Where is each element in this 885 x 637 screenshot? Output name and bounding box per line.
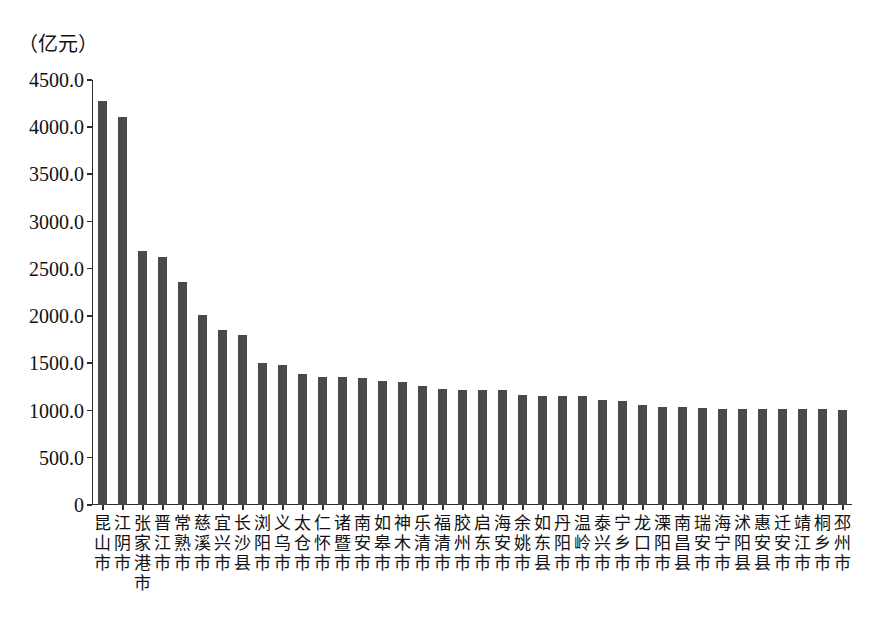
y-axis-tick-mark	[87, 504, 92, 506]
y-axis-tick-label: 3000.0	[10, 212, 84, 232]
bar	[378, 381, 387, 505]
bar	[238, 335, 247, 505]
bar	[298, 374, 307, 505]
x-axis-tick-mark	[182, 505, 184, 510]
x-axis-tick-label-char: 邳	[830, 514, 854, 534]
y-axis-tick-label: 1000.0	[10, 401, 84, 421]
bar-chart: （亿元） 4500.04000.03500.03000.02500.02000.…	[0, 0, 885, 637]
bar	[258, 363, 267, 505]
bar	[118, 117, 127, 505]
y-axis-tick-label: 500.0	[10, 448, 84, 468]
x-axis-tick-mark	[382, 505, 384, 510]
y-axis-tick-mark	[87, 173, 92, 175]
bar	[838, 410, 847, 505]
y-axis-tick-mark	[87, 315, 92, 317]
bar	[498, 390, 507, 505]
x-axis-tick-label-char: 市	[130, 574, 154, 594]
y-axis-tick-mark	[87, 221, 92, 223]
bar	[678, 407, 687, 505]
bar	[158, 257, 167, 505]
y-axis-tick-mark	[87, 268, 92, 270]
y-axis-tick-label: 2000.0	[10, 306, 84, 326]
x-axis-tick-mark	[162, 505, 164, 510]
y-axis-tick-mark	[87, 79, 92, 81]
bar	[578, 396, 587, 505]
x-axis-tick-mark	[362, 505, 364, 510]
y-axis-tick-label: 0	[10, 495, 84, 515]
x-axis-tick-mark	[422, 505, 424, 510]
x-axis-tick-mark	[462, 505, 464, 510]
bar	[718, 409, 727, 505]
x-axis-tick-mark	[522, 505, 524, 510]
x-axis-tick-mark	[302, 505, 304, 510]
bar	[338, 377, 347, 505]
bar	[318, 377, 327, 505]
x-axis-tick-mark	[142, 505, 144, 510]
y-axis-tick-mark	[87, 362, 92, 364]
bar	[138, 251, 147, 505]
bar	[738, 409, 747, 505]
x-axis-tick-mark	[402, 505, 404, 510]
bar	[98, 101, 107, 505]
x-axis-tick-mark	[202, 505, 204, 510]
x-axis-tick-mark	[502, 505, 504, 510]
y-axis-tick-label: 1500.0	[10, 353, 84, 373]
x-axis-tick-mark	[242, 505, 244, 510]
bar	[598, 400, 607, 505]
x-axis-tick-mark	[602, 505, 604, 510]
x-axis-tick-label-char: 州	[830, 534, 854, 554]
x-axis-tick-mark	[482, 505, 484, 510]
bar	[418, 386, 427, 505]
bar	[398, 382, 407, 505]
x-axis-tick-mark	[802, 505, 804, 510]
x-axis-tick-mark	[562, 505, 564, 510]
x-axis-tick-labels: 昆山市江阴市张家港市晋江市常熟市慈溪市宜兴市长沙县浏阳市义乌市太仓市仁怀市诸暨市…	[92, 514, 852, 634]
x-axis-tick-mark	[702, 505, 704, 510]
x-axis-tick-mark	[782, 505, 784, 510]
bar	[178, 282, 187, 505]
x-axis-tick-mark	[682, 505, 684, 510]
bar	[558, 396, 567, 505]
y-axis-tick-label: 3500.0	[10, 164, 84, 184]
bar	[618, 401, 627, 505]
x-axis-tick-mark	[262, 505, 264, 510]
y-axis-tick-labels: 4500.04000.03500.03000.02500.02000.01500…	[0, 80, 84, 505]
x-axis-tick-mark	[102, 505, 104, 510]
bar	[518, 395, 527, 505]
bar	[538, 396, 547, 505]
bar	[698, 408, 707, 505]
bar	[438, 389, 447, 505]
bar	[358, 378, 367, 506]
bar	[198, 315, 207, 505]
x-axis-tick-mark	[822, 505, 824, 510]
x-axis-tick-mark	[322, 505, 324, 510]
x-axis-tick-mark	[542, 505, 544, 510]
y-axis-tick-label: 4000.0	[10, 117, 84, 137]
y-axis-tick-label: 4500.0	[10, 70, 84, 90]
x-axis-tick-mark	[282, 505, 284, 510]
bar	[658, 407, 667, 505]
x-axis-tick-mark	[662, 505, 664, 510]
x-axis-tick-mark	[762, 505, 764, 510]
x-axis-tick-mark	[122, 505, 124, 510]
x-axis-tick-mark	[342, 505, 344, 510]
x-axis-tick-mark	[622, 505, 624, 510]
bars-layer	[92, 80, 852, 505]
bar	[778, 409, 787, 505]
y-axis-unit-label: （亿元）	[18, 28, 98, 57]
x-axis-tick-mark	[722, 505, 724, 510]
bar	[218, 330, 227, 505]
bar	[478, 390, 487, 505]
y-axis-tick-mark	[87, 126, 92, 128]
bar	[798, 409, 807, 505]
y-axis-tick-mark	[87, 410, 92, 412]
x-axis-tick-mark	[442, 505, 444, 510]
y-axis-tick-mark	[87, 457, 92, 459]
x-axis-tick-mark	[742, 505, 744, 510]
bar	[638, 405, 647, 505]
bar	[818, 409, 827, 505]
x-axis-tick-label: 邳州市	[830, 514, 854, 574]
x-axis-tick-mark	[582, 505, 584, 510]
bar	[278, 365, 287, 505]
x-axis-tick-mark	[842, 505, 844, 510]
